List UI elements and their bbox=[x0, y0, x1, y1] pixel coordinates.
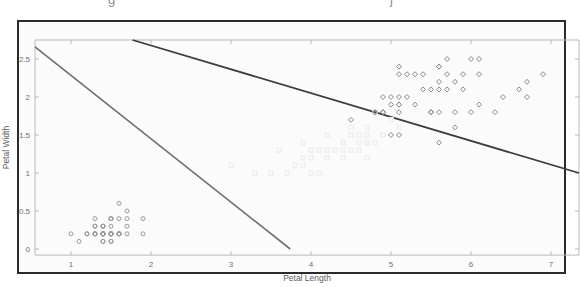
y-tick-label: 0.5 bbox=[19, 207, 31, 216]
marker-square bbox=[317, 148, 321, 152]
y-tick-label: 1 bbox=[26, 169, 31, 178]
marker-diamond bbox=[429, 110, 434, 115]
marker-square bbox=[365, 133, 369, 137]
marker-square bbox=[317, 171, 321, 175]
x-tick-label: 2 bbox=[149, 260, 154, 269]
marker-square bbox=[365, 156, 369, 160]
marker-diamond bbox=[413, 102, 418, 107]
marker-diamond bbox=[389, 102, 394, 107]
marker-square bbox=[285, 171, 289, 175]
x-tick-label: 7 bbox=[549, 260, 554, 269]
decision-lines-group bbox=[35, 40, 579, 249]
marker-diamond bbox=[437, 87, 442, 92]
marker-circle bbox=[109, 224, 113, 228]
axis-spines-left-bottom bbox=[35, 40, 579, 255]
x-tick-label: 4 bbox=[309, 260, 314, 269]
axes-group bbox=[35, 40, 579, 255]
marker-square bbox=[301, 141, 305, 145]
marker-square bbox=[349, 125, 353, 129]
marker-diamond bbox=[493, 110, 498, 115]
axis-spines-top-right bbox=[35, 40, 579, 255]
x-tick-label: 1 bbox=[69, 260, 74, 269]
data-points-group bbox=[69, 57, 546, 244]
marker-square bbox=[349, 148, 353, 152]
marker-square bbox=[349, 133, 353, 137]
marker-diamond bbox=[453, 125, 458, 130]
marker-square bbox=[309, 171, 313, 175]
x-tick-label: 3 bbox=[229, 260, 234, 269]
marker-square bbox=[341, 148, 345, 152]
marker-diamond bbox=[469, 57, 474, 62]
marker-diamond bbox=[437, 64, 442, 69]
marker-diamond bbox=[397, 110, 402, 115]
marker-square bbox=[309, 156, 313, 160]
marker-diamond bbox=[389, 95, 394, 100]
x-tick-label: 5 bbox=[389, 260, 394, 269]
marker-diamond bbox=[397, 102, 402, 107]
marker-square bbox=[229, 163, 233, 167]
marker-circle bbox=[109, 217, 113, 221]
marker-diamond bbox=[397, 95, 402, 100]
y-tick-label: 2.5 bbox=[19, 55, 31, 64]
marker-diamond bbox=[397, 72, 402, 77]
marker-square bbox=[325, 148, 329, 152]
marker-square bbox=[301, 163, 305, 167]
marker-circle bbox=[117, 217, 121, 221]
marker-diamond bbox=[381, 95, 386, 100]
marker-square bbox=[325, 133, 329, 137]
marker-diamond bbox=[429, 110, 434, 115]
marker-diamond bbox=[461, 87, 466, 92]
marker-square bbox=[293, 163, 297, 167]
marker-circle bbox=[117, 232, 121, 236]
marker-square bbox=[333, 148, 337, 152]
marker-circle bbox=[109, 232, 113, 236]
marker-square bbox=[309, 148, 313, 152]
marker-circle bbox=[125, 217, 129, 221]
marker-diamond bbox=[477, 102, 482, 107]
marker-square bbox=[325, 156, 329, 160]
marker-square bbox=[341, 156, 345, 160]
y-tick-label: 0 bbox=[26, 245, 31, 254]
marker-diamond bbox=[421, 72, 426, 77]
marker-diamond bbox=[453, 110, 458, 115]
x-axis-title: Petal Length bbox=[283, 273, 331, 283]
scatter-plot-svg: 123456700.511.522.5Petal LengthPetal Wid… bbox=[0, 0, 580, 287]
marker-circle bbox=[77, 239, 81, 243]
marker-circle bbox=[93, 232, 97, 236]
marker-circle bbox=[141, 232, 145, 236]
marker-circle bbox=[101, 239, 105, 243]
marker-diamond bbox=[349, 117, 354, 122]
marker-diamond bbox=[429, 87, 434, 92]
marker-square bbox=[357, 141, 361, 145]
marker-circle bbox=[93, 217, 97, 221]
marker-diamond bbox=[437, 79, 442, 84]
marker-circle bbox=[93, 224, 97, 228]
marker-diamond bbox=[389, 133, 394, 138]
marker-diamond bbox=[397, 102, 402, 107]
marker-circle bbox=[141, 217, 145, 221]
marker-diamond bbox=[469, 110, 474, 115]
y-axis-title: Petal Width bbox=[1, 126, 11, 170]
series-virginica bbox=[349, 57, 546, 146]
marker-square bbox=[341, 141, 345, 145]
marker-square bbox=[373, 141, 377, 145]
marker-diamond bbox=[477, 72, 482, 77]
axis-labels-group: 123456700.511.522.5Petal LengthPetal Wid… bbox=[1, 55, 554, 283]
marker-square bbox=[357, 148, 361, 152]
marker-diamond bbox=[397, 133, 402, 138]
marker-diamond bbox=[477, 57, 482, 62]
marker-square bbox=[277, 148, 281, 152]
marker-diamond bbox=[445, 57, 450, 62]
marker-square bbox=[381, 133, 385, 137]
marker-circle bbox=[125, 232, 129, 236]
series-versicolor bbox=[229, 110, 401, 175]
marker-diamond bbox=[453, 79, 458, 84]
marker-diamond bbox=[525, 79, 530, 84]
marker-square bbox=[397, 125, 401, 129]
marker-circle bbox=[69, 232, 73, 236]
marker-diamond bbox=[445, 72, 450, 77]
marker-circle bbox=[117, 201, 121, 205]
marker-diamond bbox=[445, 87, 450, 92]
y-tick-label: 1.5 bbox=[19, 131, 31, 140]
dark-boundary-line bbox=[133, 40, 579, 173]
